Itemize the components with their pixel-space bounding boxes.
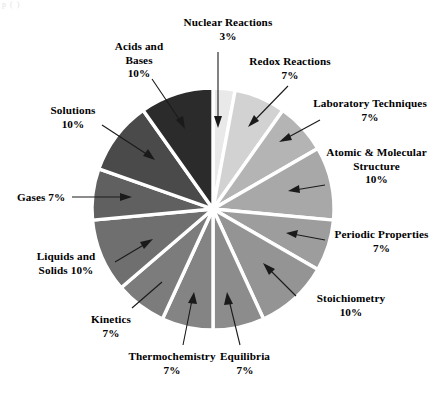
slice-label-acids-and-bases: Acids and Bases 10% — [96, 40, 182, 81]
slice-label-kinetics-value: 7% — [74, 327, 148, 341]
slice-label-redox-reactions-name: Redox Reactions — [224, 55, 356, 69]
slice-label-periodic-properties-value: 7% — [320, 242, 443, 256]
slice-label-redox-reactions: Redox Reactions 7% — [224, 55, 356, 82]
slice-label-atomic-molecular-name-1: Atomic & Molecular — [310, 146, 443, 160]
slice-label-atomic-molecular-name-2: Structure — [310, 160, 443, 174]
slice-label-stoichiometry: Stoichiometry 10% — [296, 292, 406, 319]
slice-label-laboratory-techniques-value: 7% — [297, 111, 443, 125]
slice-label-thermochemistry-value: 7% — [111, 364, 233, 378]
corner-text-fragment: p ( ) — [2, 0, 20, 9]
slice-label-periodic-properties: Periodic Properties 7% — [320, 228, 443, 255]
slice-label-liquids-and-solids: Liquids and Solids 10% — [14, 250, 118, 277]
slice-label-stoichiometry-name: Stoichiometry — [296, 292, 406, 306]
slice-label-laboratory-techniques: Laboratory Techniques 7% — [297, 97, 443, 124]
slice-label-liquids-and-solids-value: Solids 10% — [14, 264, 118, 278]
slice-label-solutions: Solutions 10% — [32, 104, 114, 131]
pie-chart-figure: p ( ) — [0, 0, 443, 402]
slice-label-acids-and-bases-name-2: Bases — [96, 54, 182, 68]
slice-label-solutions-name: Solutions — [32, 104, 114, 118]
slice-label-kinetics-name: Kinetics — [74, 313, 148, 327]
slice-label-acids-and-bases-value: 10% — [96, 67, 182, 81]
slice-label-atomic-molecular-structure: Atomic & Molecular Structure 10% — [310, 146, 443, 187]
slice-label-liquids-and-solids-name: Liquids and — [14, 250, 118, 264]
slice-label-thermochemistry-name: Thermochemistry — [111, 350, 233, 364]
slice-label-acids-and-bases-name-1: Acids and — [96, 40, 182, 54]
slice-label-atomic-molecular-value: 10% — [310, 173, 443, 187]
slice-label-nuclear-reactions-name: Nuclear Reactions — [158, 16, 298, 30]
slice-label-gases: Gases 7% — [17, 191, 97, 205]
slice-label-gases-name-value: Gases 7% — [17, 191, 97, 205]
slice-label-redox-reactions-value: 7% — [224, 69, 356, 83]
slice-label-solutions-value: 10% — [32, 118, 114, 132]
slice-label-periodic-properties-name: Periodic Properties — [320, 228, 443, 242]
slice-label-stoichiometry-value: 10% — [296, 306, 406, 320]
slice-label-kinetics: Kinetics 7% — [74, 313, 148, 340]
slice-label-laboratory-techniques-name: Laboratory Techniques — [297, 97, 443, 111]
slice-label-thermochemistry: Thermochemistry 7% — [111, 350, 233, 377]
slice-label-nuclear-reactions: Nuclear Reactions 3% — [158, 16, 298, 43]
